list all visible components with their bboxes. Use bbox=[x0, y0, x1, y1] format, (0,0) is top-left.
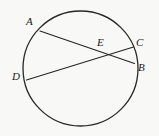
chord-dc-line bbox=[27, 47, 134, 80]
point-label-b: B bbox=[138, 62, 145, 73]
geometry-canvas bbox=[0, 0, 159, 136]
geometry-figure: A B C D E bbox=[0, 0, 159, 136]
point-label-a: A bbox=[26, 16, 33, 27]
point-label-e: E bbox=[97, 37, 104, 48]
circle-outline bbox=[23, 11, 138, 126]
point-label-d: D bbox=[12, 71, 20, 82]
point-label-c: C bbox=[136, 37, 143, 48]
chord-ab-line bbox=[40, 31, 135, 64]
